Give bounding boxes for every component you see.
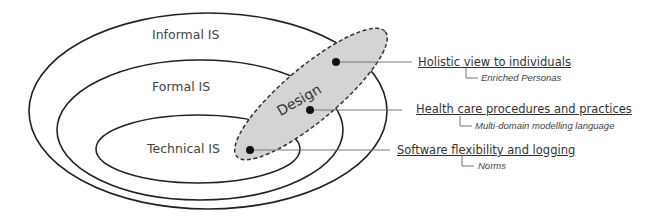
annotation-title: Health care procedures and practices <box>416 102 632 116</box>
technical-is-label: Technical IS <box>147 141 220 156</box>
design-point-icon <box>332 58 340 66</box>
annotation-detail: Multi-domain modelling language <box>475 120 614 131</box>
annotation-title: Holistic view to individuals <box>418 55 571 69</box>
annotation-title: Software flexibility and logging <box>397 143 575 157</box>
design-point-icon <box>246 146 254 154</box>
design-point-icon <box>306 106 314 114</box>
informal-is-label: Informal IS <box>152 27 219 42</box>
annotation-detail: Norms <box>478 160 506 171</box>
annotation-detail: Enriched Personas <box>481 72 561 83</box>
formal-is-label: Formal IS <box>152 79 210 94</box>
